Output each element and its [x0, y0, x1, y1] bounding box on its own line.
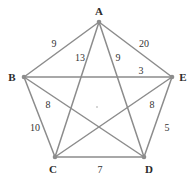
- edge-weight-be: 3: [139, 66, 144, 76]
- edge-weight-ae: 20: [139, 39, 149, 49]
- edge-weight-bc: 10: [30, 123, 40, 133]
- graph-edge: [24, 77, 55, 157]
- graph-edge: [144, 77, 172, 157]
- graph-edge: [55, 77, 172, 157]
- weighted-graph-figure: ABCDE 9201393881057: [0, 0, 195, 185]
- graph-vertex: [97, 20, 102, 25]
- edge-weight-de: 5: [165, 123, 170, 133]
- vertex-label-d: D: [145, 164, 153, 175]
- edge-weight-ad: 9: [116, 53, 121, 63]
- graph-vertex: [142, 155, 147, 160]
- edge-weight-ab: 9: [52, 39, 57, 49]
- vertex-label-a: A: [95, 6, 103, 17]
- graph-vertex: [170, 75, 175, 80]
- graph-vertex: [22, 75, 27, 80]
- vertex-label-b: B: [8, 72, 15, 83]
- edge-layer: [24, 22, 172, 157]
- vertex-label-c: C: [49, 164, 57, 175]
- graph-edge: [99, 22, 172, 77]
- graph-canvas: [0, 0, 195, 185]
- graph-edge: [55, 22, 99, 157]
- graph-edge: [99, 22, 144, 157]
- edge-weight-bd: 8: [46, 100, 51, 110]
- graph-vertex: [53, 155, 58, 160]
- center-speck-icon: [96, 106, 98, 108]
- edge-weight-ac: 13: [75, 53, 85, 63]
- vertex-label-e: E: [179, 72, 186, 83]
- edge-weight-ce: 8: [150, 100, 155, 110]
- edge-weight-cd: 7: [98, 165, 103, 175]
- graph-edge: [24, 22, 99, 77]
- vertex-layer: [22, 20, 175, 160]
- graph-edge: [24, 77, 144, 157]
